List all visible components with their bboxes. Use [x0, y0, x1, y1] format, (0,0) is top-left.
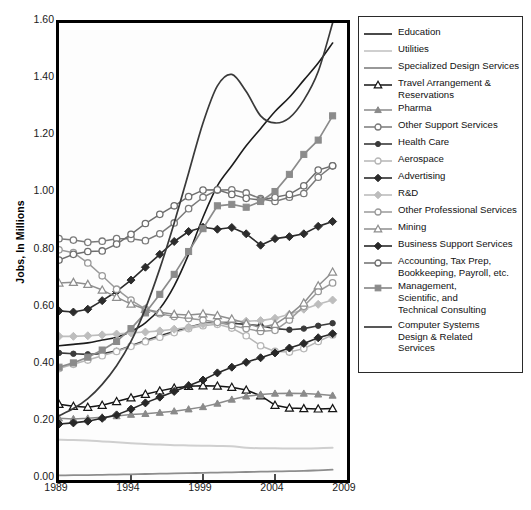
legend-item-3[interactable]: Specialized Design Services: [363, 60, 518, 75]
legend-key-icon: [363, 120, 393, 134]
legend-key-icon: [363, 188, 393, 202]
chart-figure: 1.601.401.201.000.800.600.400.200.00 Job…: [0, 0, 531, 510]
legend-item-7[interactable]: Health Care: [363, 136, 518, 151]
data-point-marker: [185, 193, 191, 199]
data-point-marker: [214, 203, 220, 209]
data-point-marker: [375, 260, 381, 266]
data-point-marker: [128, 326, 134, 332]
data-point-marker: [200, 226, 206, 232]
data-point-marker: [229, 201, 235, 207]
data-point-marker: [329, 218, 337, 226]
data-point-marker: [99, 238, 105, 244]
series-canvas: [59, 23, 347, 480]
data-point-marker: [84, 305, 92, 313]
legend-label: Computer SystemsDesign & RelatedServices: [398, 319, 480, 354]
legend-swatch-icon: [363, 320, 393, 334]
legend-swatch-icon: [363, 205, 393, 219]
legend-item-2[interactable]: Utilities: [363, 43, 518, 58]
legend-item-14[interactable]: Accounting, Tax Prep,Bookkeeping, Payrol…: [363, 255, 518, 278]
legend-key-icon: [363, 256, 393, 270]
data-point-marker: [286, 171, 292, 177]
legend-label: Other Support Services: [398, 119, 498, 131]
legend-item-5[interactable]: Pharma: [363, 102, 518, 117]
series-line: [59, 470, 333, 476]
legend-label: Accounting, Tax Prep,Bookkeeping, Payrol…: [398, 255, 509, 278]
legend-key-icon: [363, 171, 393, 185]
y-tick-label: 1.60: [20, 14, 54, 24]
legend-key-icon: [363, 44, 393, 58]
data-point-marker: [214, 187, 220, 193]
data-point-marker: [329, 296, 337, 304]
legend-item-1[interactable]: Education: [363, 26, 518, 41]
data-point-marker: [200, 194, 206, 200]
legend-swatch-icon: [363, 222, 393, 236]
legend-item-11[interactable]: Other Professional Services: [363, 204, 518, 219]
legend-item-13[interactable]: Business Support Services: [363, 238, 518, 253]
y-tick-label: 0.40: [20, 357, 54, 367]
legend-label: Utilities: [398, 43, 429, 55]
data-point-marker: [375, 124, 381, 130]
data-point-marker: [271, 235, 279, 243]
legend-label: Mining: [398, 221, 426, 233]
data-point-marker: [128, 231, 134, 237]
data-point-marker: [156, 327, 164, 335]
legend-key-icon: [363, 78, 393, 92]
legend-item-9[interactable]: Advertising: [363, 170, 518, 185]
series-13: [59, 330, 337, 428]
data-point-marker: [113, 241, 119, 247]
legend-label: Travel Arrangement &Reservations: [398, 77, 491, 100]
legend: EducationUtilitiesSpecialized Design Ser…: [358, 16, 523, 373]
data-point-marker: [69, 308, 77, 316]
legend-key-icon: [363, 154, 393, 168]
data-point-marker: [59, 364, 62, 370]
y-tick-label: 1.40: [20, 71, 54, 81]
series-2: [59, 440, 333, 449]
legend-item-4[interactable]: Travel Arrangement &Reservations: [363, 77, 518, 100]
data-point-marker: [258, 198, 264, 204]
data-point-marker: [85, 354, 91, 360]
legend-key-icon: [363, 61, 393, 75]
data-point-marker: [114, 338, 120, 344]
legend-key-icon: [363, 27, 393, 41]
legend-item-6[interactable]: Other Support Services: [363, 119, 518, 134]
data-point-marker: [70, 251, 76, 257]
data-point-marker: [375, 286, 381, 292]
legend-label: Specialized Design Services: [398, 60, 519, 72]
data-point-marker: [98, 297, 106, 305]
y-tick-label: 0.00: [20, 471, 54, 481]
data-point-marker: [243, 195, 249, 201]
data-point-marker: [213, 369, 221, 377]
data-point-marker: [213, 225, 221, 233]
legend-item-15[interactable]: Management,Scientific, andTechnical Cons…: [363, 280, 518, 315]
legend-item-16[interactable]: Computer SystemsDesign & RelatedServices: [363, 319, 518, 354]
data-point-marker: [157, 291, 163, 297]
y-tick-label: 1.20: [20, 128, 54, 138]
data-point-marker: [59, 257, 62, 263]
legend-swatch-icon: [363, 154, 393, 168]
data-point-marker: [315, 137, 321, 143]
data-point-marker: [127, 405, 135, 413]
legend-label: Education: [398, 26, 441, 38]
data-point-marker: [99, 273, 105, 279]
data-point-marker: [330, 320, 335, 325]
data-point-marker: [59, 332, 63, 340]
data-point-marker: [228, 224, 236, 232]
data-point-marker: [98, 331, 106, 339]
data-point-marker: [375, 209, 381, 215]
legend-item-12[interactable]: Mining: [363, 221, 518, 236]
data-point-marker: [113, 286, 119, 292]
legend-label: Pharma: [398, 102, 432, 114]
data-point-marker: [59, 235, 62, 241]
legend-swatch-icon: [363, 44, 393, 58]
data-point-marker: [329, 163, 335, 169]
legend-item-10[interactable]: R&D: [363, 187, 518, 202]
data-point-marker: [85, 248, 91, 254]
data-point-marker: [157, 231, 163, 237]
legend-item-8[interactable]: Aerospace: [363, 153, 518, 168]
data-point-marker: [329, 280, 335, 286]
data-point-marker: [71, 351, 76, 356]
data-point-marker: [315, 174, 321, 180]
data-point-marker: [287, 327, 292, 332]
data-point-marker: [99, 347, 105, 353]
data-point-marker: [374, 174, 382, 182]
